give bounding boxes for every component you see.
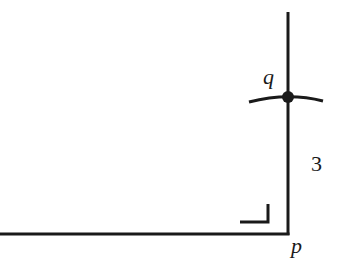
label-q: q	[263, 64, 274, 89]
point-q-dot	[282, 91, 294, 103]
label-length-3: 3	[311, 151, 322, 176]
label-p: p	[289, 233, 302, 258]
right-angle-marker	[240, 204, 268, 222]
geometry-diagram: q 3 p	[0, 0, 351, 259]
